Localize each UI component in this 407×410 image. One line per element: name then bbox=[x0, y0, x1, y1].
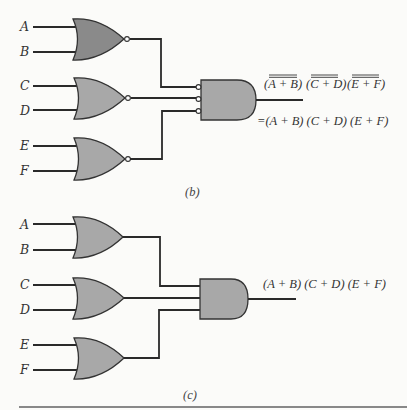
input-label-d: D bbox=[19, 302, 30, 317]
output-label-top-b: (A + B) (C + D) (E + F) bbox=[264, 75, 385, 91]
wire-or3-to-and bbox=[124, 310, 200, 358]
input-label-e: E bbox=[19, 138, 29, 153]
wire-or1-to-and bbox=[123, 237, 200, 286]
input-label-c: C bbox=[20, 78, 30, 93]
term-ab-overlined: (A + B) bbox=[264, 77, 302, 91]
input-label-f: F bbox=[19, 362, 30, 377]
term-ef-overlined: (E + F) bbox=[347, 77, 385, 91]
nor-bubble-ab bbox=[125, 37, 130, 42]
or-gate-cd bbox=[73, 278, 124, 319]
input-label-c: C bbox=[20, 277, 30, 292]
and-input-bubble-1 bbox=[196, 85, 201, 90]
input-label-b: B bbox=[19, 242, 29, 257]
nor-gate-ab bbox=[73, 19, 124, 60]
or-gate-ab bbox=[73, 217, 123, 258]
input-label-e: E bbox=[19, 337, 29, 352]
output-label-bottom-b: =(A + B) (C + D) (E + F) bbox=[257, 114, 388, 128]
wire-nor1-to-and bbox=[130, 39, 196, 87]
caption-b: (b) bbox=[185, 185, 200, 199]
nor-gate-cd bbox=[74, 78, 125, 119]
nor-bubble-ef bbox=[126, 157, 131, 162]
and-gate-b bbox=[201, 80, 256, 120]
output-label-c: (A + B) (C + D) (E + F) bbox=[263, 277, 386, 291]
logic-diagram: A B C D E F (A + B) bbox=[0, 0, 407, 410]
and-input-bubble-3 bbox=[196, 109, 201, 114]
nor-gate-ef bbox=[74, 138, 125, 180]
input-label-a: A bbox=[19, 217, 29, 232]
caption-c: (c) bbox=[183, 388, 197, 402]
figure-c: A B C D E F (A + B) (C + D) (E + F) (c) bbox=[19, 217, 386, 402]
or-gate-ef bbox=[74, 338, 124, 379]
wire-nor3-to-and bbox=[130, 111, 196, 159]
and-input-bubble-2 bbox=[196, 97, 201, 102]
and-gate-c bbox=[200, 279, 248, 319]
input-label-d: D bbox=[19, 103, 30, 118]
term-cd-overlined: (C + D) bbox=[306, 77, 346, 91]
input-label-a: A bbox=[19, 19, 29, 34]
input-label-b: B bbox=[19, 44, 29, 59]
nor-bubble-cd bbox=[126, 96, 131, 101]
input-label-f: F bbox=[19, 163, 30, 178]
figure-b: A B C D E F (A + B) bbox=[19, 19, 388, 199]
